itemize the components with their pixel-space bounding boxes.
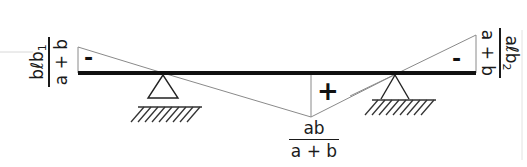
left-label-fraction-bar (48, 37, 49, 87)
beam-influence-diagram (0, 0, 527, 167)
left-pin-support (148, 75, 178, 98)
middle-positive-sign: + (317, 78, 339, 104)
left-label-denominator: a + b (52, 37, 70, 87)
positive-left-slope (163, 73, 311, 117)
right-ordinate-label: aℓb2 a + b (476, 25, 524, 81)
right-ground-hatch (365, 100, 436, 115)
left-negative-sign: - (84, 47, 93, 69)
peak-ordinate-label: ab a + b (284, 119, 344, 160)
right-slope-extension (350, 73, 398, 96)
left-ground-hatch (131, 107, 202, 122)
right-label-subscript: 2 (500, 64, 513, 71)
left-label-numerator: bℓb (27, 51, 47, 80)
peak-label-fraction-bar (289, 139, 339, 140)
right-negative-sign: - (452, 48, 461, 70)
right-negative-slope (398, 35, 476, 73)
right-label-numerator: aℓb (502, 35, 522, 63)
right-label-denominator: a + b (479, 28, 497, 78)
left-ordinate-label: bℓb1 a + b (25, 34, 73, 90)
right-label-fraction-bar (499, 28, 500, 78)
left-support-triangle (148, 75, 178, 98)
peak-label-numerator: ab (301, 119, 326, 137)
peak-label-denominator: a + b (289, 142, 339, 160)
